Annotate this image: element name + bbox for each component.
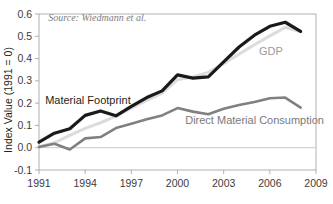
x-tick-label: 2009 [304,177,328,189]
gdp-label: GDP [259,45,283,57]
x-tick-label: 2000 [166,177,190,189]
y-tick-label: 0.3 [17,74,32,86]
x-tick-label: 2003 [212,177,236,189]
x-tick-label: 1994 [73,177,97,189]
x-tick-label: 2006 [258,177,282,189]
y-tick-label: 0.4 [17,52,32,64]
y-tick-label: -0.1 [14,164,32,176]
dmc-label: Direct Material Consumption [185,114,324,126]
chart-container: -0.10.00.10.20.30.40.50.6 19911994199720… [0,0,333,204]
y-tick-label: 0.0 [17,141,32,153]
source-note: Source: Wiedmann et al. [48,12,146,23]
line-chart: -0.10.00.10.20.30.40.50.6 19911994199720… [0,0,333,204]
material-footprint-label: Material Footprint [45,94,131,106]
x-tick-label: 1991 [27,177,51,189]
y-tick-label: 0.1 [17,119,32,131]
y-tick-label: 0.2 [17,97,32,109]
y-axis-title: Index Value (1991 = 0) [2,47,14,153]
x-tick-label: 1997 [120,177,144,189]
y-tick-label: 0.6 [17,8,32,20]
y-tick-label: 0.5 [17,30,32,42]
